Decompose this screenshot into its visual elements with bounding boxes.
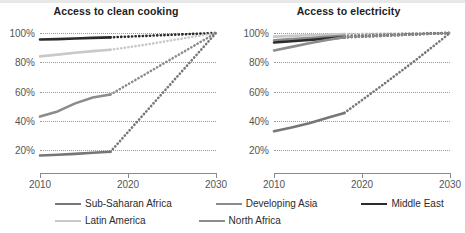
chart-legend: Sub-Saharan Africa Developing Asia Middl… bbox=[0, 191, 465, 233]
y-axis-tick-label: 20% bbox=[249, 145, 269, 156]
chart-panel-electricity: Access to electricity 20%40%60%80%100% 2… bbox=[232, 3, 465, 191]
legend-label-north-africa: North Africa bbox=[229, 215, 281, 226]
x-axis-tick bbox=[362, 173, 363, 178]
plot-area-electricity: 20%40%60%80%100% bbox=[274, 30, 450, 165]
x-axis-tick bbox=[450, 173, 451, 178]
legend-item-sub-saharan-africa[interactable]: Sub-Saharan Africa bbox=[55, 198, 172, 209]
series-line-projection bbox=[110, 33, 216, 152]
chart-panel-clean-cooking: Access to clean cooking 20%40%60%80%100%… bbox=[0, 3, 232, 191]
series-line-projection bbox=[344, 33, 450, 113]
y-axis-tick-label: 20% bbox=[15, 145, 35, 156]
legend-item-middle-east[interactable]: Middle East bbox=[361, 198, 443, 209]
x-axis-tick-label: 2030 bbox=[439, 179, 461, 190]
legend-swatch-latin-america bbox=[55, 220, 81, 222]
charts-container: Access to clean cooking 20%40%60%80%100%… bbox=[0, 3, 465, 191]
series-line-historical bbox=[274, 113, 344, 131]
series-layer bbox=[274, 30, 450, 165]
y-axis-tick-label: 100% bbox=[243, 27, 269, 38]
legend-item-north-africa[interactable]: North Africa bbox=[199, 215, 281, 226]
x-axis-tick bbox=[128, 173, 129, 178]
legend-swatch-sub-saharan-africa bbox=[55, 203, 81, 205]
x-axis-tick-label: 2020 bbox=[117, 179, 139, 190]
y-axis-tick-label: 40% bbox=[249, 115, 269, 126]
legend-item-latin-america[interactable]: Latin America bbox=[55, 215, 146, 226]
legend-label-developing-asia: Developing Asia bbox=[246, 198, 318, 209]
y-axis-tick-label: 60% bbox=[249, 86, 269, 97]
x-axis-tick bbox=[40, 173, 41, 178]
y-axis-tick-label: 60% bbox=[15, 86, 35, 97]
y-axis-tick-label: 80% bbox=[15, 57, 35, 68]
y-axis-tick-label: 80% bbox=[249, 57, 269, 68]
legend-swatch-middle-east bbox=[361, 203, 387, 205]
chart-title-electricity: Access to electricity bbox=[232, 5, 465, 17]
legend-label-middle-east: Middle East bbox=[391, 198, 443, 209]
x-axis-tick-label: 2030 bbox=[205, 179, 227, 190]
series-line-historical bbox=[40, 152, 110, 156]
x-axis-tick bbox=[274, 173, 275, 178]
x-axis-tick-label: 2020 bbox=[351, 179, 373, 190]
legend-label-sub-saharan-africa: Sub-Saharan Africa bbox=[85, 198, 172, 209]
legend-swatch-north-africa bbox=[199, 220, 225, 222]
legend-item-developing-asia[interactable]: Developing Asia bbox=[216, 198, 318, 209]
series-layer bbox=[40, 30, 216, 165]
x-axis-tick bbox=[216, 173, 217, 178]
y-axis-tick-label: 40% bbox=[15, 115, 35, 126]
plot-area-clean-cooking: 20%40%60%80%100% bbox=[40, 30, 216, 165]
legend-swatch-developing-asia bbox=[216, 203, 242, 205]
series-line-historical bbox=[40, 37, 110, 39]
legend-row-1: Sub-Saharan Africa Developing Asia Middl… bbox=[0, 195, 465, 212]
y-axis-tick-label: 100% bbox=[9, 27, 35, 38]
legend-label-latin-america: Latin America bbox=[85, 215, 146, 226]
x-axis-tick-label: 2010 bbox=[263, 179, 285, 190]
series-line-historical bbox=[40, 50, 110, 57]
series-line-historical bbox=[40, 95, 110, 117]
chart-title-clean-cooking: Access to clean cooking bbox=[0, 5, 232, 17]
x-axis-tick-label: 2010 bbox=[29, 179, 51, 190]
legend-row-2: Latin America North Africa bbox=[0, 212, 465, 229]
